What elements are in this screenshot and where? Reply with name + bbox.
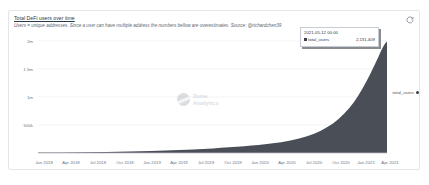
x-tick-label: Jul 2019 [198,160,214,165]
tooltip-marker-icon [304,38,307,41]
x-tick-label: Apr 2018 [62,160,79,165]
legend-item-label: total_users [393,90,414,95]
x-tick-label: Apr 2021 [381,160,398,165]
y-tick-label: 2m [27,39,33,44]
x-tick-label: Jan 2019 [143,160,161,165]
x-tick-label: Jan 2018 [35,160,53,165]
x-tick-label: Apr 2020 [278,160,295,165]
tooltip-series-name: total_users [308,37,329,43]
tooltip-series-group: total_users [304,37,329,43]
tooltip-value: 2,131,409 [356,37,375,43]
y-axis-labels: 2m 1.5m 1m 500k [9,33,37,170]
y-tick-label: 1m [27,95,33,100]
chart-legend[interactable]: total_users [393,90,419,95]
legend-marker-icon [416,91,419,94]
chart-card: Total DeFi users over time Users = uniqu… [8,10,420,170]
tooltip-row: total_users 2,131,409 [304,37,375,43]
x-tick-label: Jan 2020 [251,160,269,165]
page-title[interactable]: Total DeFi users over time [14,15,395,22]
x-tick-label: Apr 2019 [170,160,187,165]
tooltip-date: 2021-05-12 00:00 [304,30,375,36]
y-tick-label: 1.5m [23,67,33,72]
x-tick-label: Jan 2021 [357,160,375,165]
screenshot-root: Total DeFi users over time Users = uniqu… [0,0,429,185]
x-tick-label: Oct 2019 [224,160,241,165]
x-tick-label: Oct 2018 [116,160,133,165]
chart-svg [9,33,421,170]
chart-tooltip: 2021-05-12 00:00 total_users 2,131,409 [300,27,379,47]
refresh-icon[interactable] [405,15,414,24]
x-tick-label: Jul 2020 [306,160,322,165]
x-tick-label: Oct 2020 [332,160,349,165]
refresh-icon-svg [406,16,414,24]
y-tick-label: 500k [23,123,33,128]
x-tick-label: Jul 2018 [90,160,106,165]
x-axis-labels: Jan 2018 Apr 2018 Jul 2018 Oct 2018 Jan … [9,160,421,168]
chart-plot-area[interactable]: 2m 1.5m 1m 500k Jan 2018 Apr 2018 Jul 20… [9,33,421,170]
